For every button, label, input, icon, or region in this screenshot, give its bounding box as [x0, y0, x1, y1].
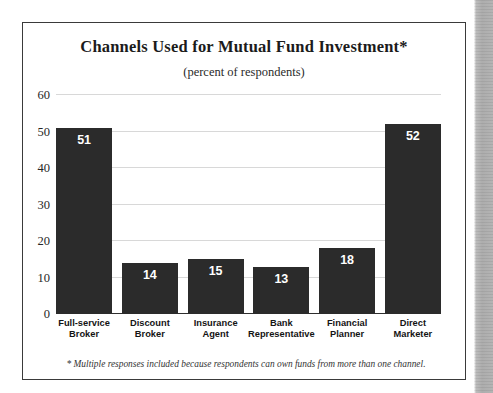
bar-series: 51Full-serviceBroker14DiscountBroker15In…	[56, 95, 441, 314]
bar-value-label: 13	[253, 272, 309, 286]
y-axis-tick-label: 60	[38, 88, 51, 103]
bar[interactable]: 51	[56, 128, 112, 314]
bar[interactable]: 14	[122, 263, 178, 314]
bar-group: 14DiscountBroker	[122, 95, 178, 314]
y-axis-tick-label: 20	[38, 234, 51, 249]
x-axis-category-line: Direct	[371, 318, 454, 329]
bar[interactable]: 18	[319, 248, 375, 314]
bar-value-label: 18	[319, 253, 375, 267]
bar[interactable]: 15	[188, 259, 244, 314]
y-axis-tick-label: 10	[38, 270, 51, 285]
bar-value-label: 52	[385, 129, 441, 143]
bar-value-label: 51	[56, 133, 112, 147]
bar-value-label: 14	[122, 268, 178, 282]
plot-area: 0102030405060 51Full-serviceBroker14Disc…	[56, 95, 441, 314]
bar-group: 51Full-serviceBroker	[56, 95, 112, 314]
bar[interactable]: 52	[385, 124, 441, 314]
x-axis-category-line: Marketer	[371, 329, 454, 340]
y-axis-tick-label: 40	[38, 161, 51, 176]
bar-group: 13BankRepresentative	[253, 95, 309, 314]
bar-group: 18FinancialPlanner	[319, 95, 375, 314]
figure-page: Channels Used for Mutual Fund Investment…	[0, 0, 493, 393]
chart-subtitle: (percent of respondents)	[23, 65, 465, 80]
bar-value-label: 15	[188, 264, 244, 278]
chart-title: Channels Used for Mutual Fund Investment…	[23, 37, 465, 57]
y-axis-tick-label: 50	[38, 124, 51, 139]
chart-footnote: * Multiple responses included because re…	[41, 359, 451, 369]
bar[interactable]: 13	[253, 267, 309, 314]
figure-frame: Channels Used for Mutual Fund Investment…	[22, 22, 466, 380]
scan-edge-artifact	[474, 0, 493, 393]
bar-group: 52DirectMarketer	[385, 95, 441, 314]
y-axis-tick-label: 30	[38, 197, 51, 212]
x-axis-category-label: DirectMarketer	[371, 318, 454, 339]
bar-group: 15InsuranceAgent	[188, 95, 244, 314]
